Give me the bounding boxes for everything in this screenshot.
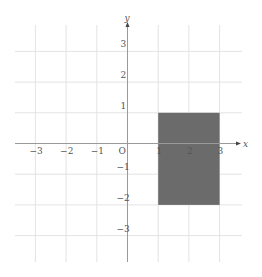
x-tick-label: 1	[156, 146, 162, 156]
coordinate-plane: x y O −3−2−1123 321−1−2−3	[0, 0, 262, 277]
x-axis-arrow-icon	[236, 142, 241, 146]
origin-label: O	[119, 146, 126, 156]
y-tick-label: −1	[117, 162, 130, 172]
x-tick-label: −1	[91, 146, 104, 156]
x-tick-label: 2	[187, 146, 193, 156]
y-tick-label: 2	[121, 70, 127, 80]
x-tick-label: −3	[29, 146, 43, 156]
y-tick-label: 3	[121, 39, 127, 49]
x-tick-label: 3	[218, 146, 224, 156]
x-axis-label: x	[243, 139, 248, 149]
y-axis-label: y	[124, 13, 131, 23]
shaded-rectangle	[158, 113, 219, 205]
x-tick-label: −2	[60, 146, 73, 156]
y-tick-label: −2	[117, 193, 130, 203]
y-tick-label: 1	[121, 101, 127, 111]
y-tick-label: −3	[117, 224, 131, 234]
